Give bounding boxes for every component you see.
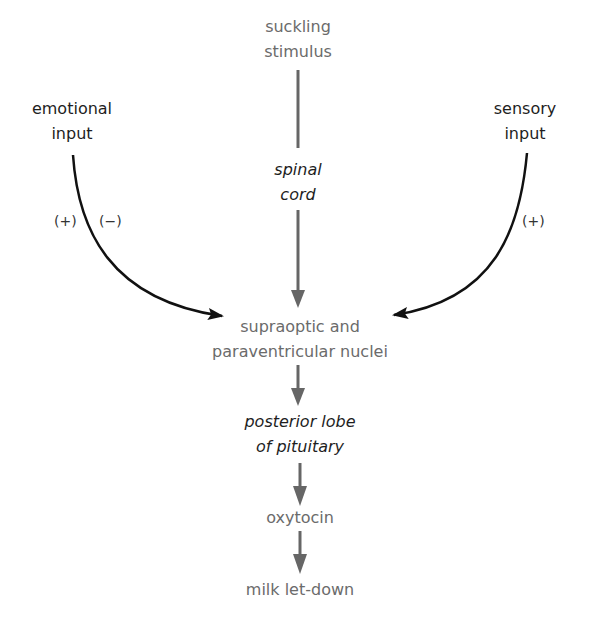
suckling-line-2: stimulus: [264, 39, 332, 64]
node-sensory-input: sensory input: [494, 96, 557, 146]
node-spinal-cord: spinal cord: [274, 157, 321, 207]
pituitary-line-2: of pituitary: [244, 434, 355, 459]
node-suckling-stimulus: suckling stimulus: [264, 14, 332, 64]
arrowhead-pituitary-to-oxytocin: [293, 486, 307, 506]
label-emotional-positive: (+): [54, 213, 77, 229]
nuclei-line-1: supraoptic and: [212, 314, 388, 339]
node-milk-letdown: milk let-down: [246, 577, 354, 602]
label-emotional-negative: (−): [99, 213, 122, 229]
emotional-line-1: emotional: [32, 96, 112, 121]
arrowhead-nuclei-to-pituitary: [291, 388, 305, 406]
suckling-line-1: suckling: [264, 14, 332, 39]
arrowhead-spinal-to-nuclei: [291, 290, 305, 308]
arrowhead-oxytocin-to-milk: [293, 554, 307, 574]
node-nuclei: supraoptic and paraventricular nuclei: [212, 314, 388, 364]
sensory-line-1: sensory: [494, 96, 557, 121]
emotional-line-2: input: [32, 121, 112, 146]
node-emotional-input: emotional input: [32, 96, 112, 146]
nuclei-line-2: paraventricular nuclei: [212, 339, 388, 364]
label-sensory-positive: (+): [522, 213, 545, 229]
node-oxytocin: oxytocin: [266, 505, 334, 530]
pituitary-line-1: posterior lobe: [244, 409, 355, 434]
arrow-emotional-to-nuclei: [73, 155, 222, 316]
spinal-line-2: cord: [274, 182, 321, 207]
sensory-line-2: input: [494, 121, 557, 146]
node-posterior-lobe: posterior lobe of pituitary: [244, 409, 355, 459]
spinal-line-1: spinal: [274, 157, 321, 182]
arrow-sensory-to-nuclei: [394, 153, 527, 315]
